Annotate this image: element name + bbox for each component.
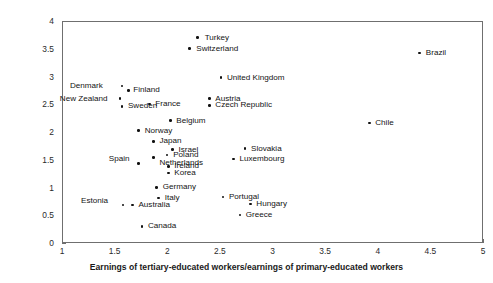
y-tick-label: 3 (14, 73, 54, 81)
data-point-label: Greece (246, 211, 273, 219)
data-point (131, 204, 134, 207)
data-point-label: Brazil (426, 49, 446, 57)
data-point-label: Germany (163, 183, 196, 191)
data-point (122, 204, 125, 207)
x-tick-label: 4.5 (410, 247, 450, 255)
data-point (239, 214, 242, 217)
data-point (152, 156, 155, 159)
data-point (167, 172, 170, 175)
data-point-label: Sweden (128, 102, 157, 110)
data-point (157, 197, 160, 200)
data-point-label: Czech Republic (215, 101, 272, 109)
data-point-label: Canada (148, 222, 176, 230)
data-point (167, 165, 170, 168)
data-point-label: Denmark (70, 82, 103, 90)
data-point (169, 119, 172, 122)
y-tick-label: 2.5 (14, 100, 54, 108)
x-tick-label: 1 (42, 247, 82, 255)
data-point (220, 76, 223, 79)
data-point (119, 97, 122, 100)
x-tick-label: 1.5 (95, 247, 135, 255)
data-point-label: Australia (138, 201, 170, 209)
plot-area: TurkeySwitzerlandUnited KingdomBrazilDen… (62, 21, 483, 243)
data-point-label: Portugal (229, 193, 259, 201)
data-point-label: New Zealand (60, 95, 108, 103)
data-point-label: Switzerland (196, 45, 238, 53)
data-point (208, 104, 211, 107)
data-point (166, 154, 169, 157)
data-point (152, 140, 155, 143)
data-point (368, 122, 371, 125)
data-point (208, 97, 211, 100)
data-point (141, 225, 144, 228)
y-tick-label: 2 (14, 128, 54, 136)
x-tick-label: 4 (358, 247, 398, 255)
data-point-label: Hungary (256, 200, 287, 208)
data-point (137, 162, 140, 165)
data-point (127, 89, 130, 92)
x-tick-mark (483, 239, 484, 243)
data-point-label: United Kingdom (227, 74, 285, 82)
data-point-label: Luxembourg (240, 155, 285, 163)
data-point (249, 203, 252, 206)
x-tick-label: 3.5 (305, 247, 345, 255)
data-point-label: Korea (174, 169, 196, 177)
data-point (244, 147, 247, 150)
y-tick-label: 1 (14, 184, 54, 192)
data-point (121, 105, 124, 108)
data-point (188, 47, 191, 50)
data-point-label: Slovakia (251, 145, 282, 153)
data-point (121, 85, 124, 88)
y-tick-label: 4 (14, 17, 54, 25)
data-point-label: Norway (145, 127, 172, 135)
data-point (418, 52, 421, 55)
scatter-chart-figure: ln(emigration rate among tertiary-educat… (0, 0, 493, 283)
x-axis-title: Earnings of tertiary-educated workers/ea… (0, 262, 493, 272)
x-tick-label: 2 (147, 247, 187, 255)
y-tick-label: 1.5 (14, 156, 54, 164)
y-tick-mark (62, 243, 66, 244)
y-tick-label: 3.5 (14, 45, 54, 53)
data-point-label: Turkey (205, 34, 229, 42)
data-point (222, 196, 225, 199)
data-point-label: Finland (133, 86, 160, 94)
x-tick-label: 2.5 (200, 247, 240, 255)
data-point-label: France (155, 100, 180, 108)
y-tick-label: 0.5 (14, 211, 54, 219)
data-point-label: Chile (375, 119, 393, 127)
data-point (155, 186, 158, 189)
data-point (196, 36, 199, 39)
data-point-label: Belgium (176, 117, 205, 125)
x-tick-label: 3 (253, 247, 293, 255)
data-point (137, 129, 140, 132)
x-tick-label: 5 (463, 247, 493, 255)
data-point-label: Estonia (81, 197, 108, 205)
data-point (232, 158, 235, 161)
data-point-label: Spain (109, 155, 130, 163)
